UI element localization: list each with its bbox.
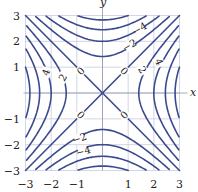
x-tick-label: −1 xyxy=(69,178,85,191)
x-tick-label: 3 xyxy=(176,178,183,191)
x-axis-label: x xyxy=(190,86,197,99)
x-tick-label: −2 xyxy=(43,178,59,191)
y-axis-label: y xyxy=(99,0,107,9)
contour-label: −4 xyxy=(75,144,92,158)
x-tick-label: 1 xyxy=(125,178,132,191)
contour-line xyxy=(78,166,128,170)
x-tick-label: −3 xyxy=(17,178,33,191)
contour-line xyxy=(175,67,179,117)
y-tick-label: −1 xyxy=(4,113,20,126)
contour-line xyxy=(26,67,30,117)
y-tick-label: 3 xyxy=(13,10,20,23)
y-tick-label: −3 xyxy=(4,165,20,178)
contour-plot: 00004224−4−2−2−4 −3−2−1123−3−2−1123 x y xyxy=(0,0,198,192)
y-tick-label: −2 xyxy=(4,139,20,152)
x-tick-label: 2 xyxy=(150,178,157,191)
y-tick-label: 1 xyxy=(13,61,20,74)
contour-line xyxy=(78,16,128,20)
tick-labels: −3−2−1123−3−2−1123 xyxy=(4,10,183,192)
y-tick-label: 2 xyxy=(13,35,20,48)
